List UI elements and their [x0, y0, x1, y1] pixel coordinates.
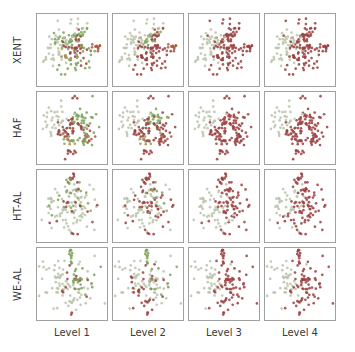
scatter-panel-xent-level2 [112, 13, 184, 87]
scatter-panel-we-al-level4 [264, 247, 336, 321]
scatter-panel-xent-level4 [264, 13, 336, 87]
scatter-plot [265, 14, 335, 86]
row-label-xent: XENT [0, 13, 34, 87]
scatter-grid [36, 13, 336, 321]
scatter-panel-haf-level3 [188, 91, 260, 165]
row-labels: XENT HAF HT-AL WE-AL [0, 13, 34, 321]
scatter-panel-ht-al-level3 [188, 169, 260, 243]
scatter-panel-xent-level1 [36, 13, 108, 87]
col-label-level2: Level 2 [112, 327, 184, 338]
scatter-plot [189, 248, 259, 320]
scatter-plot [113, 170, 183, 242]
scatter-plot [37, 92, 107, 164]
col-label-level3: Level 3 [188, 327, 260, 338]
scatter-plot [189, 14, 259, 86]
scatter-panel-haf-level2 [112, 91, 184, 165]
scatter-panel-we-al-level2 [112, 247, 184, 321]
scatter-plot [113, 248, 183, 320]
scatter-plot [37, 170, 107, 242]
row-label-ht-al: HT-AL [0, 169, 34, 243]
scatter-plot [37, 14, 107, 86]
scatter-panel-haf-level1 [36, 91, 108, 165]
scatter-plot [37, 248, 107, 320]
col-label-level1: Level 1 [36, 327, 108, 338]
scatter-plot [265, 170, 335, 242]
col-label-level4: Level 4 [264, 327, 336, 338]
scatter-plot [265, 92, 335, 164]
scatter-panel-ht-al-level4 [264, 169, 336, 243]
scatter-plot [113, 92, 183, 164]
scatter-plot [113, 14, 183, 86]
scatter-plot [265, 248, 335, 320]
row-label-we-al: WE-AL [0, 247, 34, 321]
scatter-plot [189, 170, 259, 242]
scatter-panel-we-al-level1 [36, 247, 108, 321]
scatter-panel-ht-al-level2 [112, 169, 184, 243]
scatter-panel-haf-level4 [264, 91, 336, 165]
scatter-panel-ht-al-level1 [36, 169, 108, 243]
column-labels: Level 1 Level 2 Level 3 Level 4 [36, 327, 336, 338]
tsne-grid-figure: XENT HAF HT-AL WE-AL Level 1 Level 2 Lev… [0, 0, 355, 352]
scatter-panel-we-al-level3 [188, 247, 260, 321]
row-label-haf: HAF [0, 91, 34, 165]
scatter-plot [189, 92, 259, 164]
scatter-panel-xent-level3 [188, 13, 260, 87]
